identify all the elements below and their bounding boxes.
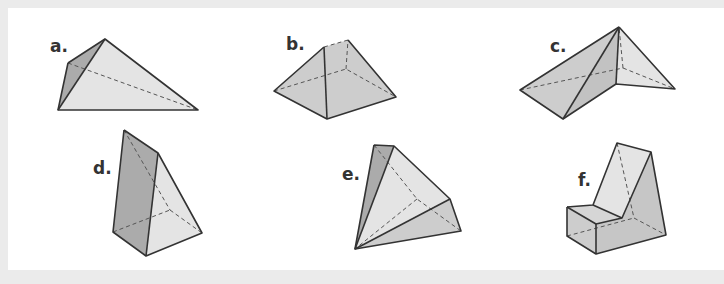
- solid-e: e.: [342, 145, 461, 249]
- solids-figure: a. b. c. d.: [0, 0, 724, 284]
- solid-f: f.: [567, 143, 666, 254]
- solid-b: b.: [274, 34, 396, 119]
- solid-d: d.: [93, 130, 202, 256]
- solid-a: a.: [50, 36, 198, 110]
- solid-c-label: c.: [550, 36, 567, 56]
- solid-e-label: e.: [342, 164, 360, 184]
- solid-a-label: a.: [50, 36, 68, 56]
- solid-d-label: d.: [93, 158, 112, 178]
- solid-c: c.: [520, 27, 675, 119]
- solid-b-right-face: [324, 40, 396, 119]
- solid-b-label: b.: [286, 34, 305, 54]
- solid-f-label: f.: [578, 170, 591, 190]
